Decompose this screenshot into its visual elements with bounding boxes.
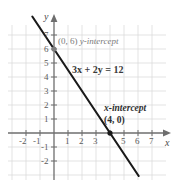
x-tick-3: 3 bbox=[93, 137, 98, 146]
y-tick-2: 2 bbox=[44, 101, 49, 110]
y-tick-3: 3 bbox=[44, 87, 49, 96]
y-intercept-annotation: (0, 6) y-intercept bbox=[58, 36, 118, 46]
y-tick-neg1: -1 bbox=[41, 143, 49, 152]
equation-text: 3x + 2y = 12 bbox=[72, 64, 123, 75]
x-tick-7: 7 bbox=[149, 137, 154, 146]
y-tick-5: 5 bbox=[44, 59, 49, 68]
y-tick-6: 6 bbox=[44, 45, 49, 54]
x-intercept-coordinate: (4, 0) bbox=[104, 115, 146, 126]
y-intercept-coordinate: (0, 6) bbox=[58, 36, 78, 46]
x-tick-neg1: -1 bbox=[33, 137, 41, 146]
y-tick-4: 4 bbox=[44, 73, 49, 82]
y-axis bbox=[51, 14, 58, 180]
x-tick-2: 2 bbox=[79, 137, 84, 146]
x-intercept-point-marker bbox=[107, 130, 112, 135]
x-intercept-annotation: x-intercept (4, 0) bbox=[104, 103, 146, 126]
y-axis-label: y bbox=[44, 12, 48, 22]
x-intercept-label: x-intercept bbox=[104, 103, 146, 113]
x-tick-5: 5 bbox=[121, 137, 126, 146]
x-tick-6: 6 bbox=[135, 137, 140, 146]
coordinate-plane-figure: 7 6 5 4 3 2 1 -1 -2 -2 -1 1 2 3 5 6 7 y … bbox=[0, 0, 178, 184]
x-axis-label: x bbox=[165, 138, 169, 148]
y-tick-neg2: -2 bbox=[41, 157, 49, 166]
y-intercept-point-marker bbox=[51, 46, 56, 51]
graph-canvas bbox=[0, 0, 178, 184]
y-intercept-label: y-intercept bbox=[80, 36, 119, 46]
y-tick-7: 7 bbox=[44, 31, 49, 40]
equation-annotation: 3x + 2y = 12 bbox=[72, 64, 123, 76]
x-tick-neg2: -2 bbox=[19, 137, 27, 146]
y-tick-1: 1 bbox=[44, 115, 49, 124]
x-tick-1: 1 bbox=[65, 137, 70, 146]
